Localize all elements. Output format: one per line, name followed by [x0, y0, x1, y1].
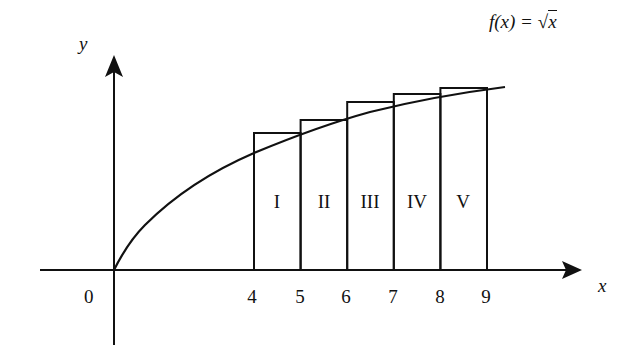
x-tick-5: 5	[295, 287, 305, 306]
function-label: f(x) = √x	[489, 12, 557, 31]
function-label-radicand: x	[548, 10, 556, 32]
rectangles	[254, 88, 487, 270]
x-axis-label: x	[598, 276, 606, 295]
x-tick-6: 6	[341, 287, 351, 306]
rectangle-V	[440, 88, 487, 270]
rectangle-label-V: V	[456, 192, 470, 211]
x-tick-9: 9	[481, 287, 491, 306]
function-label-lhs: f(x) =	[489, 11, 538, 32]
x-tick-4: 4	[247, 287, 257, 306]
x-tick-7: 7	[388, 287, 398, 306]
y-axis-label: y	[79, 34, 87, 53]
origin-label: 0	[84, 287, 94, 306]
sqrt-curve	[114, 87, 505, 270]
rectangle-label-II: II	[318, 192, 331, 211]
diagram-canvas	[0, 0, 636, 356]
rectangle-label-III: III	[361, 192, 380, 211]
rectangle-III	[347, 102, 394, 270]
x-tick-8: 8	[435, 287, 445, 306]
rectangle-label-I: I	[274, 192, 280, 211]
rectangle-IV	[394, 94, 441, 270]
rectangle-label-IV: IV	[407, 192, 427, 211]
sqrt-icon: √	[538, 11, 548, 32]
